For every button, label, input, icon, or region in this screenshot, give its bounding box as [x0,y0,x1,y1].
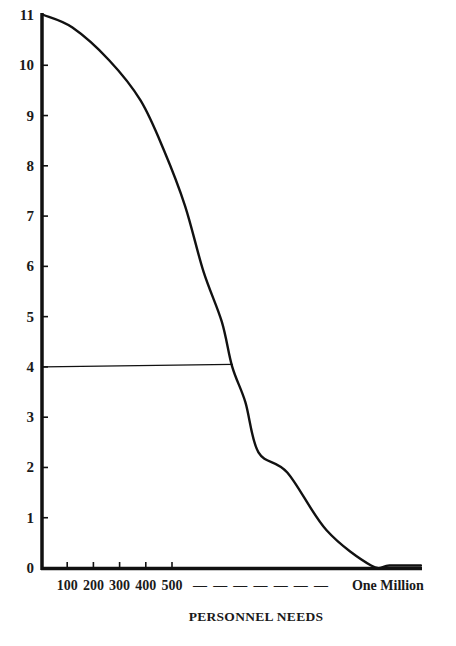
y-axis-labels: 01234567891011 [19,7,35,576]
series-curve [44,15,421,568]
y-tick-label-4: 4 [27,359,35,375]
x-axis-end-label: One Million [352,578,424,593]
y-tick-label-11: 11 [20,7,34,23]
x-axis-dash-label: — — — — — — — [192,578,329,593]
y-tick-label-3: 3 [27,409,35,425]
y-tick-label-6: 6 [27,258,35,274]
x-tick-label-500: 500 [162,578,183,593]
y-tick-label-1: 1 [27,510,35,526]
y-tick-label-7: 7 [27,208,35,224]
series-reference-line-at-4 [44,364,233,367]
x-tick-label-300: 300 [109,578,130,593]
y-tick-label-8: 8 [27,158,35,174]
y-tick-label-5: 5 [27,309,35,325]
x-tick-label-100: 100 [57,578,78,593]
y-tick-label-10: 10 [19,57,34,73]
x-axis-labels: 100200300400500 [57,578,183,593]
x-tick-label-200: 200 [83,578,104,593]
y-tick-label-0: 0 [27,560,35,576]
x-tick-label-400: 400 [135,578,156,593]
series-group [44,15,421,568]
x-axis-title: PERSONNEL NEEDS [189,609,324,624]
chart: 01234567891011 100200300400500 — — — — —… [0,0,456,646]
y-tick-label-9: 9 [27,108,35,124]
y-tick-label-2: 2 [27,459,35,475]
